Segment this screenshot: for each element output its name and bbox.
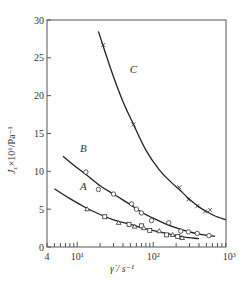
point-triangle <box>157 229 162 233</box>
y-axis-label: Jc×10⁶/Pa⁻¹ <box>6 126 19 174</box>
y-axis: 051015202530 <box>34 15 51 253</box>
point-circle <box>139 211 143 215</box>
curve-label-C: C <box>130 63 138 75</box>
x-tick-label: 10¹ <box>71 251 84 262</box>
x-tick-label: 10² <box>147 251 160 262</box>
plot-frame <box>47 20 226 247</box>
x-axis-label: γ̇ / s⁻¹ <box>110 263 134 274</box>
y-tick-label: 20 <box>34 90 44 101</box>
point-square <box>176 234 180 238</box>
x-tick-label: 4 <box>45 251 50 262</box>
y-tick-label: 25 <box>34 52 44 63</box>
point-circle <box>149 218 153 222</box>
point-circle <box>207 233 211 237</box>
y-tick-label: 15 <box>34 128 44 139</box>
point-circle <box>96 187 100 191</box>
point-square <box>103 215 107 219</box>
point-circle <box>167 221 171 225</box>
y-tick-label: 5 <box>39 204 44 215</box>
point-square <box>127 222 131 226</box>
y-tick-label: 0 <box>39 242 44 253</box>
point-circle <box>129 202 133 206</box>
chart: 051015202530 410¹10²10³ CBA Jc×10⁶/Pa⁻¹ … <box>0 0 244 290</box>
curve-B <box>63 156 215 236</box>
point-square <box>148 228 152 232</box>
point-circle <box>186 230 190 234</box>
point-circle <box>111 192 115 196</box>
y-tick-label: 10 <box>34 166 44 177</box>
point-circle <box>195 231 199 235</box>
series-curves <box>54 31 225 238</box>
point-circle <box>84 170 88 174</box>
y-tick-label: 30 <box>34 15 44 26</box>
x-axis: 410¹10²10³ <box>45 242 236 262</box>
point-circle <box>134 207 138 211</box>
series-points <box>84 43 212 240</box>
curve-C <box>98 31 225 219</box>
curve-label-B: B <box>80 142 87 154</box>
curve-label-A: A <box>79 180 87 192</box>
x-tick-label: 10³ <box>223 251 236 262</box>
point-circle <box>179 229 183 233</box>
point-cross <box>208 208 212 212</box>
curve-A <box>54 189 199 239</box>
point-square <box>165 233 169 237</box>
